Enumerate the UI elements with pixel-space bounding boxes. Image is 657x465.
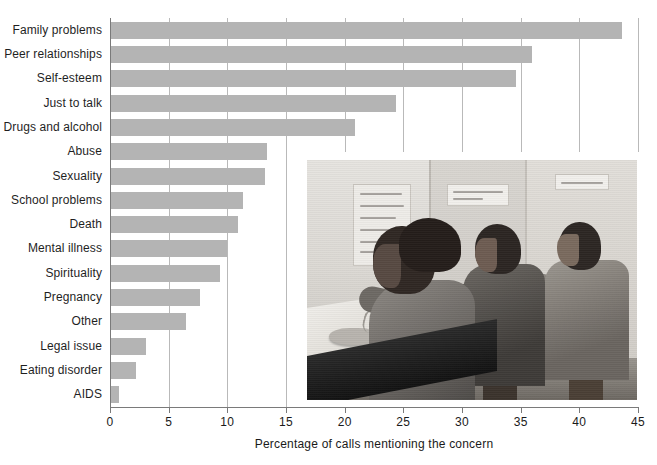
x-tick-mark xyxy=(169,407,170,413)
bar-just-to-talk xyxy=(110,95,396,112)
x-tick-label: 45 xyxy=(618,415,657,429)
bar-sexuality xyxy=(110,168,265,185)
x-tick-mark xyxy=(403,407,404,413)
bar-death xyxy=(110,216,238,233)
bar-aids xyxy=(110,386,119,403)
x-tick-mark xyxy=(462,407,463,413)
category-label-legal-issue: Legal issue xyxy=(0,339,102,353)
category-label-other: Other xyxy=(0,314,102,328)
y-axis-line xyxy=(110,18,111,407)
category-label-school-problems: School problems xyxy=(0,193,102,207)
category-label-eating-disorder: Eating disorder xyxy=(0,363,102,377)
bar-row xyxy=(110,119,638,136)
bar-peer-relationships xyxy=(110,46,532,63)
bar-family-problems xyxy=(110,22,622,39)
category-label-death: Death xyxy=(0,217,102,231)
hotline-photograph xyxy=(300,152,644,407)
photo-person-face xyxy=(475,238,497,272)
x-tick-mark xyxy=(521,407,522,413)
x-tick-mark xyxy=(345,407,346,413)
bar-row xyxy=(110,22,638,39)
bar-other xyxy=(110,313,186,330)
bar-self-esteem xyxy=(110,70,516,87)
x-tick-label: 20 xyxy=(325,415,365,429)
bar-chart-figure: 051015202530354045 Family problemsPeer r… xyxy=(0,0,657,465)
x-axis-title: Percentage of calls mentioning the conce… xyxy=(110,437,638,451)
bar-pregnancy xyxy=(110,289,200,306)
category-label-abuse: Abuse xyxy=(0,144,102,158)
x-tick-label: 25 xyxy=(383,415,423,429)
category-label-spirituality: Spirituality xyxy=(0,266,102,280)
category-label-pregnancy: Pregnancy xyxy=(0,290,102,304)
bar-drugs-and-alcohol xyxy=(110,119,355,136)
bar-abuse xyxy=(110,143,267,160)
x-tick-label: 10 xyxy=(207,415,247,429)
photo-person-hair xyxy=(399,218,461,272)
category-label-family-problems: Family problems xyxy=(0,23,102,37)
x-tick-label: 0 xyxy=(90,415,130,429)
x-tick-mark xyxy=(638,407,639,413)
category-labels: Family problemsPeer relationshipsSelf-es… xyxy=(0,18,102,407)
x-tick-mark xyxy=(110,407,111,413)
photo-person-face xyxy=(557,234,579,266)
bar-mental-illness xyxy=(110,240,227,257)
bar-row xyxy=(110,95,638,112)
category-label-peer-relationships: Peer relationships xyxy=(0,47,102,61)
x-tick-label: 5 xyxy=(149,415,189,429)
category-label-just-to-talk: Just to talk xyxy=(0,96,102,110)
x-tick-mark xyxy=(286,407,287,413)
category-label-aids: AIDS xyxy=(0,387,102,401)
x-tick-label: 15 xyxy=(266,415,306,429)
photo-sign-listen-with-care xyxy=(447,184,509,206)
bar-legal-issue xyxy=(110,338,146,355)
photo-sign-suicide-hot-line xyxy=(555,174,609,190)
bar-row xyxy=(110,46,638,63)
x-tick-mark xyxy=(579,407,580,413)
x-axis-line xyxy=(110,407,639,408)
category-label-self-esteem: Self-esteem xyxy=(0,71,102,85)
x-tick-label: 30 xyxy=(442,415,482,429)
x-tick-label: 40 xyxy=(559,415,599,429)
bar-spirituality xyxy=(110,265,220,282)
bar-row xyxy=(110,70,638,87)
category-label-mental-illness: Mental illness xyxy=(0,241,102,255)
category-label-drugs-and-alcohol: Drugs and alcohol xyxy=(0,120,102,134)
bar-school-problems xyxy=(110,192,243,209)
photograph-image xyxy=(307,160,637,400)
category-label-sexuality: Sexuality xyxy=(0,169,102,183)
photo-person-face xyxy=(373,244,401,288)
bar-eating-disorder xyxy=(110,362,136,379)
x-tick-label: 35 xyxy=(501,415,541,429)
photo-person-body xyxy=(545,260,629,380)
x-tick-mark xyxy=(227,407,228,413)
